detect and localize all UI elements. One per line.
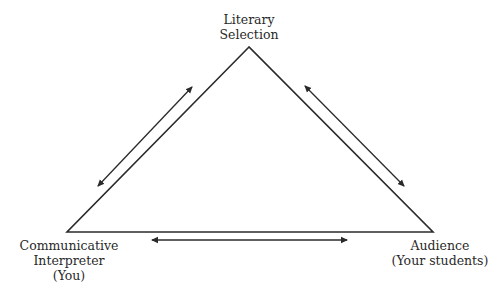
triangle-shape [67,47,433,232]
node-label-line: (Your students) [385,253,495,268]
node-label-line: (You) [14,268,124,283]
node-communicative-interpreter: Communicative Interpreter (You) [14,238,124,283]
node-label-line: Communicative [14,238,124,253]
node-label-line: Interpreter [14,253,124,268]
node-literary-selection: Literary Selection [199,12,299,42]
arrow-literary-audience [305,86,404,186]
arrow-interpreter-literary [98,87,192,186]
node-label-line: Audience [385,238,495,253]
node-label-line: Literary [199,12,299,27]
node-label-line: Selection [199,27,299,42]
node-audience: Audience (Your students) [385,238,495,268]
